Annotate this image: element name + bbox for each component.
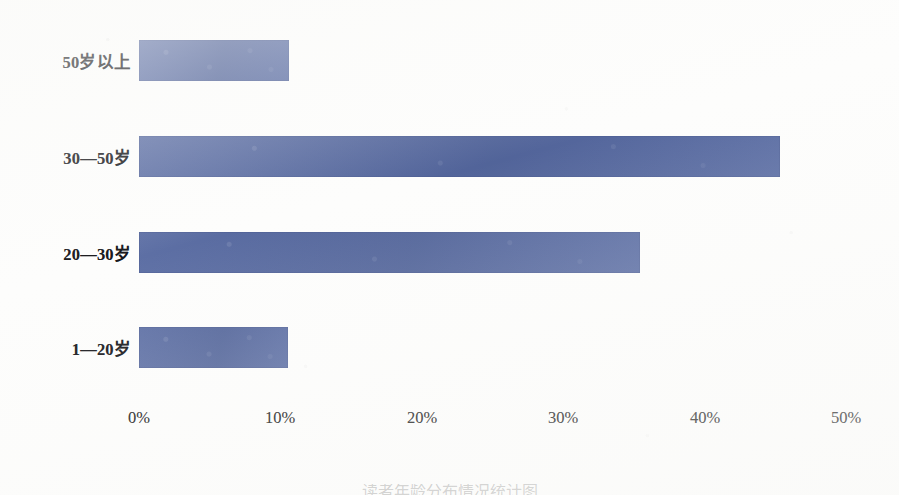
bar-row: 1—20岁: [0, 327, 899, 368]
bar-1-20: [139, 327, 288, 368]
bar-20-30: [139, 232, 640, 273]
x-tick-50: 50%: [831, 408, 861, 428]
category-label-30-50: 30—50岁: [63, 145, 131, 169]
category-label-1-20: 1—20岁: [72, 336, 131, 360]
x-tick-10: 10%: [265, 408, 295, 428]
bar-row: 20—30岁: [0, 232, 899, 273]
bar-50-plus: [139, 40, 289, 81]
category-label-20-30: 20—30岁: [63, 241, 131, 265]
bar-30-50: [139, 136, 780, 177]
x-axis-tick-labels: 0% 10% 20% 30% 40% 50%: [0, 408, 899, 438]
horizontal-bar-chart: 50岁以上 30—50岁 20—30岁 1—20岁 0% 10% 20% 30%…: [0, 0, 899, 495]
bar-row: 50岁以上: [0, 40, 899, 81]
x-tick-0: 0%: [128, 408, 150, 428]
bar-row: 30—50岁: [0, 136, 899, 177]
x-tick-20: 20%: [407, 408, 437, 428]
category-label-50-plus: 50岁以上: [63, 49, 132, 73]
figure-caption: 读者年龄分布情况统计图: [0, 484, 899, 495]
x-tick-40: 40%: [690, 408, 720, 428]
x-tick-30: 30%: [548, 408, 578, 428]
figure-caption-text: 读者年龄分布情况统计图: [0, 484, 899, 495]
